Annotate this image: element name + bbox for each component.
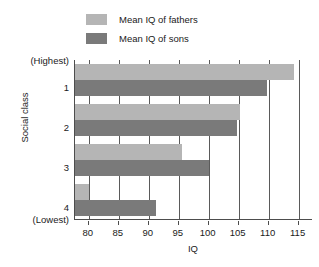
legend-swatch-sons (86, 33, 107, 44)
x-tick-label-110: 110 (253, 227, 283, 238)
x-tick-mark-115 (298, 221, 299, 225)
y-tick-label-2: 2 (0, 122, 69, 133)
y-tick-label-highest: (Highest) (0, 55, 69, 66)
iq-social-class-bar-chart: Mean IQ of fathers Mean IQ of sons 80859… (0, 0, 319, 267)
x-axis-title: IQ (74, 243, 312, 254)
x-tick-label-115: 115 (283, 227, 313, 238)
bar-class-4-fathers (75, 184, 89, 200)
x-tick-label-90: 90 (133, 227, 163, 238)
y-axis-title: Social class (19, 73, 30, 163)
x-tick-label-100: 100 (193, 227, 223, 238)
x-tick-mark-90 (148, 221, 149, 225)
legend-label-fathers: Mean IQ of fathers (119, 14, 198, 25)
plot-area (74, 60, 312, 220)
x-tick-mark-105 (238, 221, 239, 225)
y-tick-label-lowest: (Lowest) (0, 214, 69, 225)
x-tick-mark-85 (118, 221, 119, 225)
y-tick-label-4: 4 (0, 202, 69, 213)
bar-class-2-fathers (75, 104, 240, 120)
x-tick-mark-110 (268, 221, 269, 225)
x-tick-label-105: 105 (223, 227, 253, 238)
bar-series-container (75, 60, 312, 219)
bar-class-4-sons (75, 200, 156, 216)
legend-item-sons: Mean IQ of sons (86, 30, 256, 46)
x-tick-mark-95 (178, 221, 179, 225)
bar-class-3-fathers (75, 144, 182, 160)
legend-label-sons: Mean IQ of sons (119, 33, 189, 44)
x-tick-mark-100 (208, 221, 209, 225)
x-tick-label-80: 80 (73, 227, 103, 238)
legend-item-fathers: Mean IQ of fathers (86, 11, 256, 27)
bar-class-1-sons (75, 80, 267, 96)
bar-class-2-sons (75, 120, 237, 136)
bar-class-1-fathers (75, 64, 294, 80)
x-tick-mark-80 (88, 221, 89, 225)
chart-legend: Mean IQ of fathers Mean IQ of sons (86, 11, 256, 49)
y-tick-label-3: 3 (0, 162, 69, 173)
y-tick-label-1: 1 (0, 82, 69, 93)
legend-swatch-fathers (86, 14, 107, 25)
x-tick-label-85: 85 (103, 227, 133, 238)
bar-class-3-sons (75, 160, 209, 176)
x-tick-label-95: 95 (163, 227, 193, 238)
